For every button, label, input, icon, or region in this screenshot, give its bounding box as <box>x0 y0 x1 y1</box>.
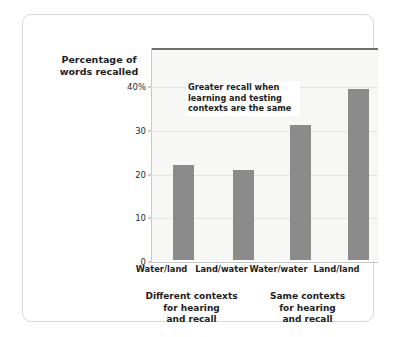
category-label-land-land: Land/land <box>307 264 367 274</box>
y-tick-label-40: 40% <box>127 82 146 92</box>
group-caption-line-1: Different contexts <box>132 291 252 303</box>
group-caption-same-contexts: Same contextsfor hearingand recall <box>248 291 368 326</box>
group-caption-line-3: and recall <box>248 314 368 326</box>
category-label-water-land: Water/land <box>132 264 192 274</box>
y-axis-title-line-2: words recalled <box>51 66 147 78</box>
bar-water-water <box>290 125 311 260</box>
group-caption-different-contexts: Different contextsfor hearingand recall <box>132 291 252 326</box>
chart-annotation-line-1: Greater recall when <box>188 82 298 93</box>
category-label-land-water: Land/water <box>192 264 252 274</box>
chart-annotation: Greater recall when learning and testing… <box>186 81 300 116</box>
y-axis-title: Percentage of words recalled <box>51 54 147 77</box>
y-axis-spine <box>151 48 152 262</box>
figure-frame: Percentage of words recalled 010203040% … <box>22 14 374 322</box>
bar-water-land <box>173 165 194 260</box>
y-tick-mark-10 <box>148 218 151 219</box>
y-tick-mark-40 <box>148 87 151 88</box>
y-axis-title-line-1: Percentage of <box>51 54 147 66</box>
y-tick-label-20: 20 <box>135 170 146 180</box>
y-tick-mark-20 <box>148 174 151 175</box>
group-caption-line-1: Same contexts <box>248 291 368 303</box>
plot-area: 010203040% Greater recall when learning … <box>151 48 378 260</box>
y-tick-mark-30 <box>148 130 151 131</box>
gridline-0 <box>151 262 378 263</box>
chart-annotation-line-2: learning and testing <box>188 93 298 104</box>
plot-inner: 010203040% Greater recall when learning … <box>151 50 378 260</box>
group-caption-line-3: and recall <box>132 314 252 326</box>
group-caption-line-2: for hearing <box>248 303 368 315</box>
group-caption-line-2: for hearing <box>132 303 252 315</box>
bar-land-water <box>233 170 254 260</box>
y-tick-mark-0 <box>148 262 151 263</box>
chart-annotation-line-3: contexts are the same <box>188 103 298 114</box>
category-label-water-water: Water/water <box>249 264 309 274</box>
bar-land-land <box>348 89 369 260</box>
gridline-30 <box>151 131 378 132</box>
y-tick-label-10: 10 <box>135 213 146 223</box>
y-tick-label-30: 30 <box>135 126 146 136</box>
